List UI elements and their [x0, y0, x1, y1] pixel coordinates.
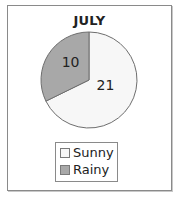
- legend: Sunny Rainy: [55, 142, 118, 182]
- slice-label-sunny: 21: [96, 77, 114, 93]
- chart-frame: JULY 2110 Sunny Rainy: [7, 5, 172, 191]
- legend-item-sunny: Sunny: [60, 145, 114, 161]
- slice-label-rainy: 10: [62, 54, 80, 70]
- legend-item-rainy: Rainy: [60, 162, 109, 178]
- legend-label-rainy: Rainy: [73, 162, 109, 178]
- sunny-swatch-icon: [60, 148, 70, 158]
- legend-label-sunny: Sunny: [73, 145, 114, 161]
- rainy-swatch-icon: [60, 165, 70, 175]
